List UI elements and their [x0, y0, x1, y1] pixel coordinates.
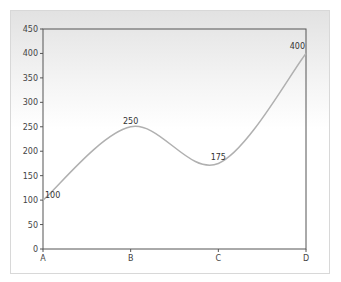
x-tick-label: D [303, 254, 309, 263]
y-tick-label: 350 [23, 74, 38, 83]
data-labels: 100250175400 [45, 42, 305, 200]
y-tick-label: 450 [23, 25, 38, 34]
y-tick-label: 150 [23, 172, 38, 181]
x-tick-label: C [216, 254, 222, 263]
x-axis: ABCD [40, 249, 309, 263]
series-line [43, 53, 306, 200]
line-chart: 050100150200250300350400450 ABCD 1002501… [0, 0, 341, 282]
y-tick-label: 200 [23, 147, 38, 156]
y-tick-label: 400 [23, 49, 38, 58]
data-label: 100 [45, 191, 60, 200]
y-tick-label: 50 [28, 221, 38, 230]
data-label: 400 [290, 42, 305, 51]
y-tick-label: 100 [23, 196, 38, 205]
y-axis: 050100150200250300350400450 [23, 25, 43, 254]
y-tick-label: 250 [23, 123, 38, 132]
plot-area [43, 29, 306, 249]
data-label: 250 [123, 117, 138, 126]
y-tick-label: 0 [33, 245, 38, 254]
y-tick-label: 300 [23, 98, 38, 107]
x-tick-label: B [128, 254, 134, 263]
data-label: 175 [211, 153, 226, 162]
x-tick-label: A [40, 254, 46, 263]
